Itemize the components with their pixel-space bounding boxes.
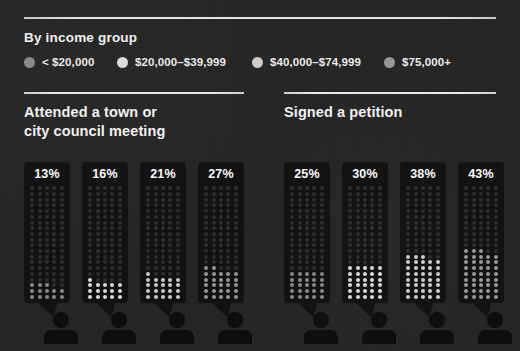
legend-item-75k-plus[interactable]: $75,000+ bbox=[384, 53, 451, 71]
dot-cell bbox=[319, 237, 325, 242]
dot-cell bbox=[94, 214, 100, 219]
dot-cell bbox=[296, 186, 302, 191]
dot-cell bbox=[152, 220, 158, 225]
dot-cell bbox=[311, 232, 317, 237]
legend-item-under-20k[interactable]: < $20,000 bbox=[24, 53, 94, 71]
dot-cell bbox=[289, 260, 295, 265]
dot-cell bbox=[160, 243, 166, 248]
dot-cell bbox=[36, 203, 42, 208]
person-icon-head bbox=[53, 312, 69, 328]
dot-cell bbox=[203, 277, 209, 282]
dot-cell bbox=[145, 232, 151, 237]
dot-cell bbox=[109, 220, 115, 225]
bar-column[interactable]: 38% bbox=[400, 162, 446, 303]
dot-cell bbox=[311, 249, 317, 254]
dot-cell bbox=[175, 277, 181, 282]
dot-cell bbox=[167, 192, 173, 197]
dot-cell bbox=[145, 289, 151, 294]
dot-cell bbox=[59, 294, 65, 299]
dot-cell bbox=[369, 271, 375, 276]
dot-cell bbox=[87, 289, 93, 294]
dot-cell bbox=[59, 266, 65, 271]
dot-cell bbox=[362, 214, 368, 219]
dot-cell bbox=[203, 226, 209, 231]
dot-cell bbox=[109, 203, 115, 208]
bar-unit[interactable]: 30% bbox=[342, 162, 388, 303]
dot-cell bbox=[296, 283, 302, 288]
section-signed-petition: Signed a petition bbox=[284, 103, 520, 122]
dot-cell bbox=[362, 283, 368, 288]
dot-cell bbox=[369, 232, 375, 237]
dot-cell bbox=[203, 266, 209, 271]
bar-unit[interactable]: 13% bbox=[24, 162, 70, 303]
dot-cell bbox=[412, 226, 418, 231]
bar-column[interactable]: 43% bbox=[458, 162, 504, 303]
dot-cell bbox=[304, 197, 310, 202]
dot-cell bbox=[152, 186, 158, 191]
dot-cell bbox=[362, 277, 368, 282]
dot-cell bbox=[145, 266, 151, 271]
bar-unit[interactable]: 25% bbox=[284, 162, 330, 303]
dot-cell bbox=[44, 232, 50, 237]
dot-cell bbox=[427, 277, 433, 282]
dot-cell bbox=[435, 226, 441, 231]
dot-cell bbox=[362, 237, 368, 242]
dot-cell bbox=[218, 266, 224, 271]
bar-column[interactable]: 13% bbox=[24, 162, 70, 303]
person-icon-head bbox=[371, 312, 387, 328]
bar-unit[interactable]: 27% bbox=[198, 162, 244, 303]
dot-cell bbox=[102, 209, 108, 214]
bar-column[interactable]: 25% bbox=[284, 162, 330, 303]
dot-cell bbox=[167, 209, 173, 214]
dot-cell bbox=[377, 266, 383, 271]
dot-cell bbox=[152, 283, 158, 288]
bar-column[interactable]: 30% bbox=[342, 162, 388, 303]
dot-cell bbox=[36, 260, 42, 265]
dot-cell bbox=[87, 283, 93, 288]
dot-cell bbox=[160, 186, 166, 191]
dot-cell bbox=[319, 243, 325, 248]
dot-cell bbox=[117, 266, 123, 271]
dot-cell bbox=[218, 289, 224, 294]
legend-dot-under-20k bbox=[24, 57, 35, 68]
dot-cell bbox=[36, 209, 42, 214]
dot-cell bbox=[493, 243, 499, 248]
bar-column[interactable]: 16% bbox=[82, 162, 128, 303]
dot-cell bbox=[102, 192, 108, 197]
dot-cell bbox=[347, 237, 353, 242]
dot-cell bbox=[218, 186, 224, 191]
dot-cell bbox=[319, 260, 325, 265]
dot-cell bbox=[362, 294, 368, 299]
dot-cell bbox=[44, 277, 50, 282]
dot-cell bbox=[347, 283, 353, 288]
dot-cell bbox=[109, 226, 115, 231]
dot-cell bbox=[427, 203, 433, 208]
dot-cell bbox=[304, 254, 310, 259]
person-icon bbox=[304, 312, 338, 340]
dot-cell bbox=[109, 209, 115, 214]
dot-cell bbox=[435, 283, 441, 288]
bar-unit[interactable]: 21% bbox=[140, 162, 186, 303]
bar-unit[interactable]: 38% bbox=[400, 162, 446, 303]
dot-cell bbox=[377, 254, 383, 259]
dot-cell bbox=[362, 249, 368, 254]
dot-cell bbox=[59, 237, 65, 242]
bar-column[interactable]: 27% bbox=[198, 162, 244, 303]
bar-unit[interactable]: 43% bbox=[458, 162, 504, 303]
legend-item-20k-39k[interactable]: $20,000–$39,999 bbox=[117, 53, 226, 71]
bar-group-attended-meeting: 13%16%21%27% bbox=[24, 162, 272, 312]
dot-cell bbox=[145, 203, 151, 208]
dot-cell bbox=[160, 209, 166, 214]
dot-cell bbox=[493, 186, 499, 191]
dot-cell bbox=[233, 266, 239, 271]
dot-cell bbox=[117, 254, 123, 259]
dot-cell bbox=[94, 271, 100, 276]
legend-item-40k-74k[interactable]: $40,000–$74,999 bbox=[252, 53, 361, 71]
dot-cell bbox=[435, 294, 441, 299]
dot-cell bbox=[319, 209, 325, 214]
bar-unit[interactable]: 16% bbox=[82, 162, 128, 303]
dot-cell bbox=[427, 197, 433, 202]
dot-cell bbox=[296, 289, 302, 294]
bar-column[interactable]: 21% bbox=[140, 162, 186, 303]
dot-cell bbox=[427, 249, 433, 254]
